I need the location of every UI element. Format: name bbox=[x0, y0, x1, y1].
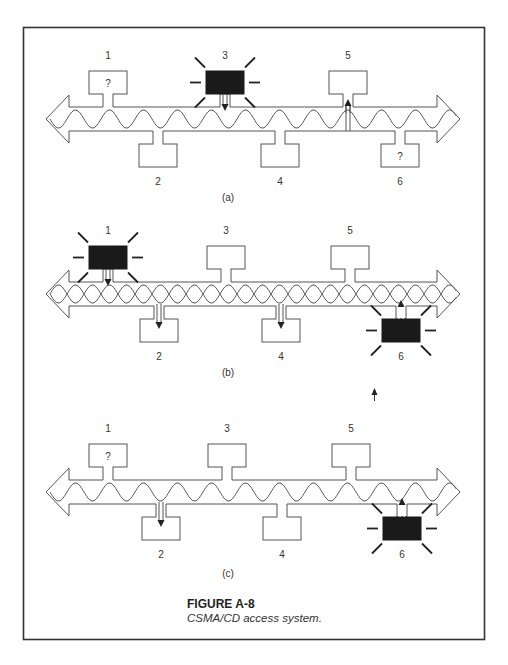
panel-label: (b) bbox=[222, 367, 234, 378]
station-1: ?1 bbox=[89, 423, 127, 467]
station-label: 1 bbox=[105, 423, 111, 434]
figure-a8: ?12345?6(a)123456(b)?123456(c) FIGURE A-… bbox=[0, 0, 508, 665]
station-label: 5 bbox=[345, 50, 351, 61]
station-box bbox=[207, 246, 245, 269]
panel-a: ?12345?6(a) bbox=[46, 50, 460, 203]
station-box bbox=[139, 144, 177, 167]
question-mark: ? bbox=[105, 451, 111, 462]
station-4: 4 bbox=[263, 517, 301, 560]
bus-cable bbox=[46, 94, 460, 144]
station-4: 4 bbox=[261, 144, 299, 187]
station-label: 5 bbox=[348, 423, 354, 434]
bus-cable bbox=[46, 269, 460, 319]
station-label: 4 bbox=[278, 351, 284, 362]
station-label: 3 bbox=[223, 225, 229, 236]
figure-caption: FIGURE A-8 CSMA/CD access system. bbox=[187, 597, 322, 625]
stray-arrow-icon bbox=[372, 388, 378, 401]
station-3: 3 bbox=[207, 225, 245, 269]
station-3: 3 bbox=[208, 423, 246, 467]
station-label: 4 bbox=[277, 176, 283, 187]
station-box bbox=[206, 71, 244, 94]
station-box bbox=[332, 444, 370, 467]
station-1: ?1 bbox=[89, 50, 127, 94]
station-2: 2 bbox=[139, 144, 177, 187]
figure-description: CSMA/CD access system. bbox=[187, 611, 322, 625]
station-box bbox=[208, 444, 246, 467]
station-box bbox=[263, 517, 301, 540]
panel-b: 123456(b) bbox=[46, 225, 460, 378]
station-label: 1 bbox=[105, 225, 111, 236]
panels-group: ?12345?6(a)123456(b)?123456(c) bbox=[46, 50, 460, 579]
question-mark: ? bbox=[397, 151, 403, 162]
station-label: 6 bbox=[398, 351, 404, 362]
station-label: 4 bbox=[279, 549, 285, 560]
station-box bbox=[329, 71, 367, 94]
station-label: 5 bbox=[347, 225, 353, 236]
station-label: 6 bbox=[399, 549, 405, 560]
station-box bbox=[261, 144, 299, 167]
panel-c: ?123456(c) bbox=[46, 423, 460, 579]
station-5: 5 bbox=[331, 225, 369, 269]
panel-label: (c) bbox=[222, 568, 234, 579]
station-box bbox=[89, 246, 127, 269]
station-label: 6 bbox=[397, 176, 403, 187]
station-box bbox=[383, 517, 421, 540]
station-label: 2 bbox=[158, 549, 164, 560]
clipped-page-text bbox=[0, 0, 508, 5]
station-label: 1 bbox=[105, 50, 111, 61]
station-5: 5 bbox=[332, 423, 370, 467]
panel-label: (a) bbox=[222, 192, 234, 203]
bus-cable bbox=[46, 467, 460, 517]
figure-number: FIGURE A-8 bbox=[187, 597, 322, 611]
station-label: 3 bbox=[222, 50, 228, 61]
station-label: 3 bbox=[224, 423, 230, 434]
station-6: ?6 bbox=[381, 144, 419, 187]
csma-cd-diagram: ?12345?6(a)123456(b)?123456(c) bbox=[0, 0, 508, 665]
station-label: 2 bbox=[155, 176, 161, 187]
question-mark: ? bbox=[105, 78, 111, 89]
station-box bbox=[382, 319, 420, 342]
station-box bbox=[331, 246, 369, 269]
station-label: 2 bbox=[156, 351, 162, 362]
